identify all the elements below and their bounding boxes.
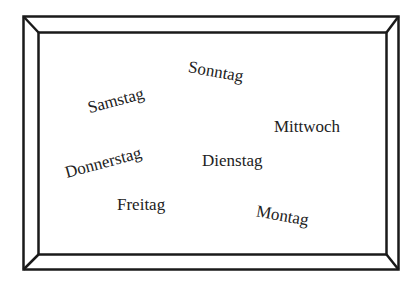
frame-corner-top-left (24, 17, 39, 33)
picture-frame (0, 0, 419, 282)
frame-corner-bottom-left (24, 255, 39, 270)
outer-frame-border (24, 17, 399, 270)
word-freitag: Freitag (117, 196, 165, 213)
frame-corner-top-right (387, 17, 399, 33)
word-dienstag: Dienstag (202, 152, 262, 169)
frame-corner-bottom-right (387, 255, 399, 270)
word-mittwoch: Mittwoch (274, 118, 340, 135)
